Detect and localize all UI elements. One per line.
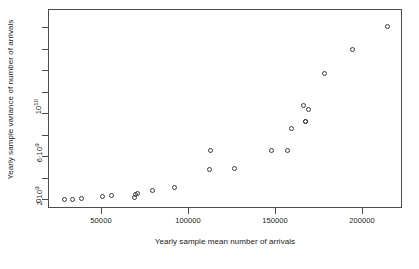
data-point (207, 167, 212, 172)
x-tick-label: 50000 (90, 216, 111, 225)
x-tick-mark (188, 208, 189, 214)
data-point (289, 126, 294, 131)
y-axis-title: Yearly sample variance of number of arri… (6, 0, 20, 199)
data-point (150, 188, 155, 193)
scatter-plot-figure: Yearly sample variance of number of arri… (0, 0, 419, 269)
data-point (385, 24, 390, 29)
data-point (301, 103, 306, 108)
data-point (350, 47, 355, 52)
x-tick-mark (275, 208, 276, 214)
data-point (208, 148, 213, 153)
x-tick-label: 200000 (349, 216, 375, 225)
data-point (79, 196, 84, 201)
data-point (269, 148, 274, 153)
y-tick-label: 1010 (32, 99, 44, 115)
data-point (285, 148, 290, 153)
data-point (135, 191, 140, 196)
data-point (172, 185, 177, 190)
data-point (70, 197, 75, 202)
data-point (232, 166, 237, 171)
x-tick-label: 150000 (262, 216, 288, 225)
x-tick-label: 100000 (175, 216, 201, 225)
x-tick-mark (362, 208, 363, 214)
y-tick-label: 2·109 (32, 186, 44, 205)
x-axis-title: Yearly sample mean number of arrivals (48, 237, 402, 246)
data-point (306, 107, 311, 112)
data-point (62, 197, 67, 202)
data-point (109, 193, 114, 198)
data-point (322, 71, 327, 76)
plot-panel (48, 9, 402, 208)
x-tick-mark (101, 208, 102, 214)
y-tick-label: 6·109 (32, 143, 44, 162)
data-point (303, 119, 308, 124)
data-point (100, 194, 105, 199)
